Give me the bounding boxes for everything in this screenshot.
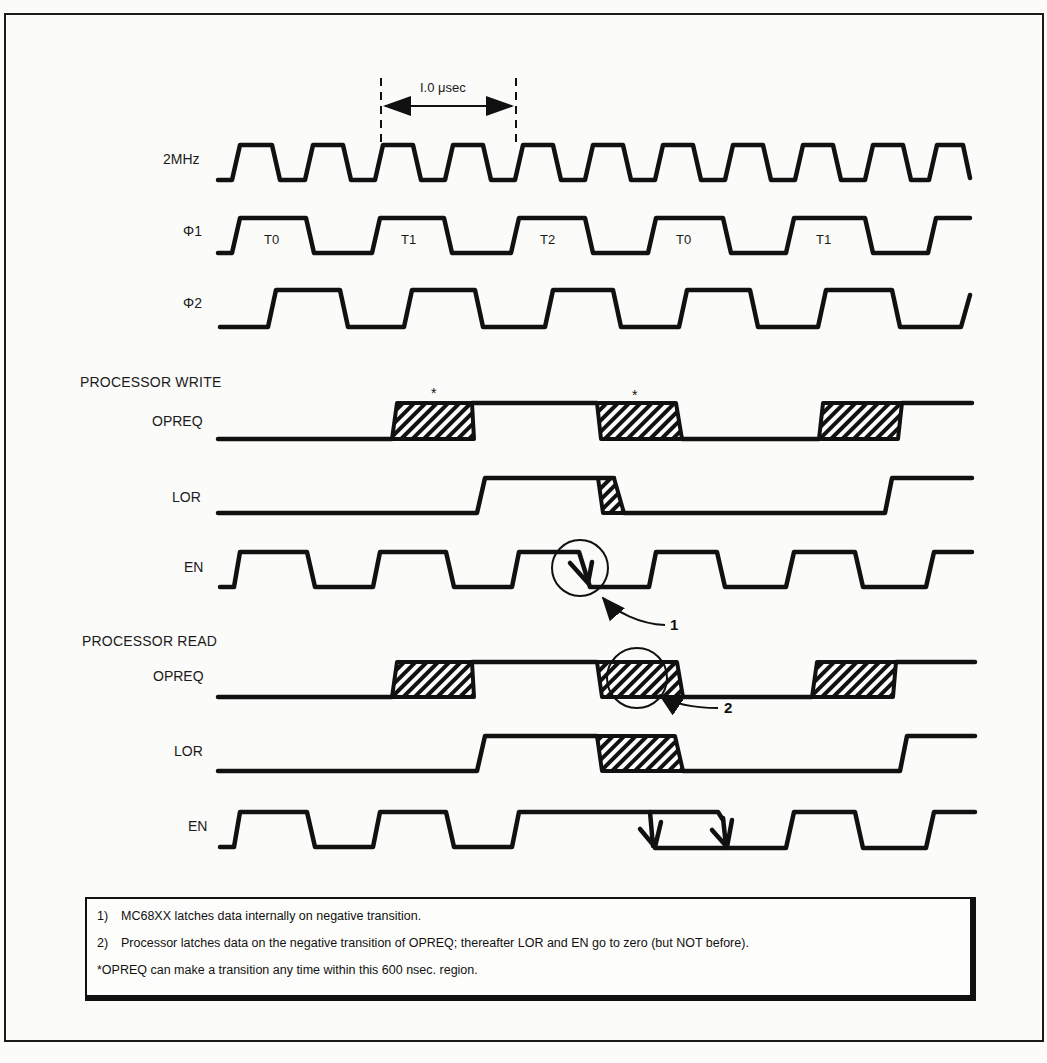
signal-label-phi2: Φ2 xyxy=(183,295,202,311)
hatched-region xyxy=(598,478,624,513)
hatched-region xyxy=(597,403,682,439)
hatched-region xyxy=(597,736,683,771)
note-number: 1) xyxy=(97,903,121,930)
note-2: 2)Processor latches data on the negative… xyxy=(97,930,960,957)
waveform-2mhz xyxy=(218,145,970,180)
hatched-region xyxy=(819,403,902,439)
section-title-write: PROCESSOR WRITE xyxy=(80,374,221,390)
waveform-phi1 xyxy=(218,218,970,253)
notes-box: 1)MC68XX latches data internally on nega… xyxy=(85,897,976,1001)
note-1: 1)MC68XX latches data internally on nega… xyxy=(97,903,960,930)
asterisk-marker: * xyxy=(431,385,437,401)
phase-label-t1: T1 xyxy=(401,232,416,247)
asterisk-marker: * xyxy=(632,387,638,403)
signal-label-phi1: Φ1 xyxy=(183,223,202,239)
waveform-write-lor xyxy=(218,478,972,513)
note-text: Processor latches data on the negative t… xyxy=(121,936,749,950)
note-asterisk: *OPREQ can make a transition any time wi… xyxy=(97,957,960,984)
section-title-read: PROCESSOR READ xyxy=(82,633,217,649)
phase-label-t1-second: T1 xyxy=(816,232,831,247)
waveform-write-opreq: * * xyxy=(218,385,972,439)
down-arrow-icon xyxy=(712,818,732,847)
period-marker: I.0 μsec xyxy=(381,78,516,146)
signal-label-2mhz: 2MHz xyxy=(163,151,200,167)
hatched-region xyxy=(392,662,474,697)
waveform-read-lor xyxy=(218,736,975,771)
annotation-circle-1 xyxy=(552,540,608,596)
read-label-opreq: OPREQ xyxy=(153,668,204,684)
write-label-en: EN xyxy=(184,559,203,575)
waveform-read-en xyxy=(220,812,975,848)
note-text: *OPREQ can make a transition any time wi… xyxy=(97,963,478,977)
write-label-opreq: OPREQ xyxy=(152,413,203,429)
down-arrow-icon xyxy=(640,812,661,847)
phase-label-t0: T0 xyxy=(264,232,279,247)
read-label-lor: LOR xyxy=(174,743,203,759)
hatched-region xyxy=(812,662,896,697)
note-number: 2) xyxy=(97,930,121,957)
period-label: I.0 μsec xyxy=(420,80,466,95)
waveform-read-opreq: 2 xyxy=(218,648,975,716)
phase-label-t2: T2 xyxy=(540,232,555,247)
annotation-label-1: 1 xyxy=(670,616,678,633)
read-label-en: EN xyxy=(188,818,207,834)
waveform-write-en: 1 xyxy=(220,540,972,633)
waveform-phi2 xyxy=(220,290,970,327)
write-label-lor: LOR xyxy=(172,489,201,505)
phase-label-t0-second: T0 xyxy=(676,232,691,247)
annotation-pointer-1 xyxy=(603,598,665,625)
hatched-region xyxy=(392,403,474,439)
note-text: MC68XX latches data internally on negati… xyxy=(121,909,421,923)
annotation-label-2: 2 xyxy=(724,699,732,716)
